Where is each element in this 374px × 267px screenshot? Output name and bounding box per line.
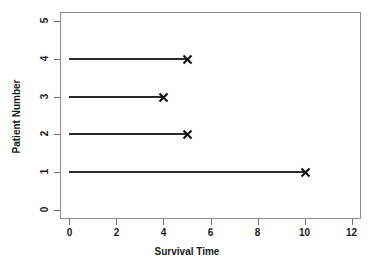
plot-area [60, 12, 361, 219]
x-event-marker-patient-3 [158, 92, 169, 103]
x-tick-label-4: 4 [148, 227, 178, 238]
x-tick-12 [352, 219, 353, 225]
y-tick-label-1: 1 [39, 163, 50, 179]
x-event-marker-patient-4 [182, 54, 193, 65]
x-tick-label-6: 6 [196, 227, 226, 238]
x-tick-8 [258, 219, 259, 225]
y-tick-label-5: 5 [39, 13, 50, 29]
x-event-marker-patient-1 [300, 167, 311, 178]
x-tick-2 [116, 219, 117, 225]
survival-time-chart: 024681012 012345 Survival Time Patient N… [0, 0, 374, 267]
x-axis-title: Survival Time [0, 246, 374, 257]
x-tick-label-10: 10 [290, 227, 320, 238]
y-tick-label-4: 4 [39, 51, 50, 67]
survival-line-patient-2 [69, 133, 187, 135]
survival-line-patient-1 [69, 171, 304, 173]
y-tick-label-2: 2 [39, 126, 50, 142]
x-tick-label-0: 0 [54, 227, 84, 238]
y-tick-4 [54, 59, 60, 60]
y-tick-3 [54, 97, 60, 98]
y-tick-2 [54, 134, 60, 135]
x-tick-label-12: 12 [337, 227, 367, 238]
y-tick-label-0: 0 [39, 201, 50, 217]
x-tick-10 [305, 219, 306, 225]
x-tick-4 [163, 219, 164, 225]
x-tick-label-8: 8 [243, 227, 273, 238]
x-tick-label-2: 2 [101, 227, 131, 238]
y-tick-5 [54, 21, 60, 22]
y-axis-title: Patient Number [11, 52, 22, 182]
x-tick-0 [69, 219, 70, 225]
y-tick-label-3: 3 [39, 88, 50, 104]
x-event-marker-patient-2 [182, 129, 193, 140]
survival-line-patient-3 [69, 96, 163, 98]
x-tick-6 [211, 219, 212, 225]
y-tick-0 [54, 210, 60, 211]
survival-line-patient-4 [69, 58, 187, 60]
y-tick-1 [54, 172, 60, 173]
